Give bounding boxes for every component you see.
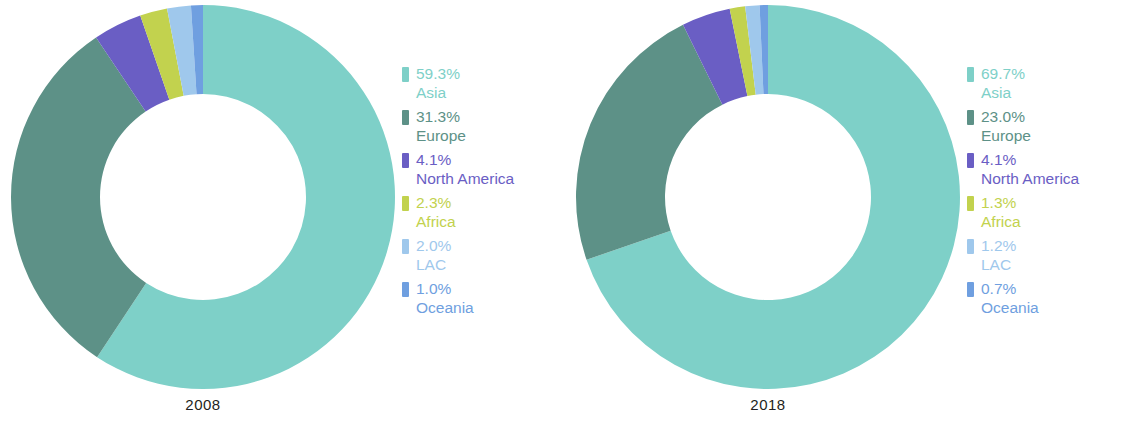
donut-svg-2018 [573,2,963,392]
legend-label: 1.3%Africa [981,193,1021,231]
charts-row: 2008 59.3%Asia31.3%Europe4.1%North Ameri… [0,0,1131,422]
legend-item: 2.3%Africa [402,193,562,231]
legend-percent: 1.2% [981,236,1016,255]
legend-series-name: Asia [981,83,1025,102]
legend-label: 1.2%LAC [981,236,1016,274]
legend-label: 4.1%North America [416,150,514,188]
legend-2008: 59.3%Asia31.3%Europe4.1%North America2.3… [402,64,562,322]
legend-swatch-icon [967,110,974,125]
legend-series-name: Africa [981,212,1021,231]
legend-item: 4.1%North America [402,150,562,188]
legend-swatch-icon [402,153,409,168]
legend-item: 0.7%Oceania [967,279,1127,317]
legend-swatch-icon [967,282,974,297]
year-label-2008: 2008 [8,396,398,413]
donut-segment [11,38,146,358]
legend-series-name: Oceania [416,298,474,317]
legend-swatch-icon [402,67,409,82]
legend-series-name: North America [416,169,514,188]
legend-series-name: Europe [416,126,466,145]
legend-percent: 2.3% [416,193,456,212]
legend-item: 31.3%Europe [402,107,562,145]
donut-chart-2008 [8,2,398,392]
donut-segments-2008 [11,5,395,389]
legend-percent: 4.1% [981,150,1079,169]
donut-chart-2018 [573,2,963,392]
legend-series-name: Africa [416,212,456,231]
legend-percent: 1.0% [416,279,474,298]
legend-label: 2.3%Africa [416,193,456,231]
legend-label: 2.0%LAC [416,236,451,274]
legend-item: 4.1%North America [967,150,1127,188]
legend-item: 2.0%LAC [402,236,562,274]
legend-label: 0.7%Oceania [981,279,1039,317]
legend-label: 23.0%Europe [981,107,1031,145]
legend-swatch-icon [967,239,974,254]
legend-percent: 31.3% [416,107,466,126]
donut-svg-2008 [8,2,398,392]
legend-swatch-icon [402,110,409,125]
legend-percent: 59.3% [416,64,460,83]
legend-series-name: North America [981,169,1079,188]
legend-label: 31.3%Europe [416,107,466,145]
legend-swatch-icon [967,196,974,211]
legend-item: 69.7%Asia [967,64,1127,102]
legend-label: 59.3%Asia [416,64,460,102]
legend-percent: 23.0% [981,107,1031,126]
legend-percent: 1.3% [981,193,1021,212]
legend-series-name: Asia [416,83,460,102]
legend-label: 69.7%Asia [981,64,1025,102]
legend-swatch-icon [967,67,974,82]
legend-percent: 2.0% [416,236,451,255]
legend-swatch-icon [402,282,409,297]
legend-label: 4.1%North America [981,150,1079,188]
legend-percent: 69.7% [981,64,1025,83]
legend-series-name: LAC [416,255,451,274]
legend-swatch-icon [967,153,974,168]
legend-swatch-icon [402,196,409,211]
chart-panel-2008: 2008 59.3%Asia31.3%Europe4.1%North Ameri… [0,0,565,422]
legend-item: 1.3%Africa [967,193,1127,231]
chart-panel-2018: 2018 69.7%Asia23.0%Europe4.1%North Ameri… [565,0,1130,422]
legend-item: 1.2%LAC [967,236,1127,274]
legend-percent: 0.7% [981,279,1039,298]
legend-swatch-icon [402,239,409,254]
year-label-2018: 2018 [573,396,963,413]
legend-item: 23.0%Europe [967,107,1127,145]
legend-item: 1.0%Oceania [402,279,562,317]
legend-label: 1.0%Oceania [416,279,474,317]
donut-segments-2018 [576,5,960,389]
legend-2018: 69.7%Asia23.0%Europe4.1%North America1.3… [967,64,1127,322]
legend-percent: 4.1% [416,150,514,169]
legend-series-name: LAC [981,255,1016,274]
legend-series-name: Oceania [981,298,1039,317]
legend-series-name: Europe [981,126,1031,145]
legend-item: 59.3%Asia [402,64,562,102]
